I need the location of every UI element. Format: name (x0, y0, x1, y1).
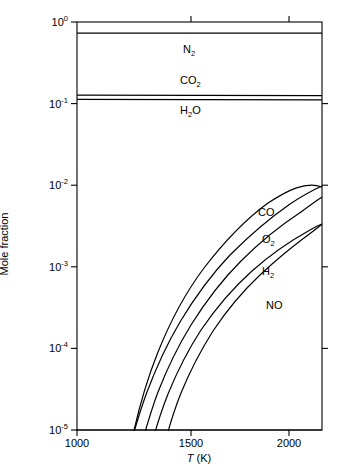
y-tick-label-1e-2: 10-2 (38, 180, 68, 191)
x-tick-label-1000: 1000 (65, 438, 89, 449)
y-axis-label: Mole fraction (0, 212, 10, 275)
series-label-h2o: H2O (180, 105, 201, 116)
y-tick-label-1e0: 100 (38, 17, 68, 28)
x-axis-ticks-top (191, 16, 289, 22)
chart-plot-area (0, 0, 346, 475)
series-label-co2: CO2 (180, 75, 201, 86)
y-axis-ticks-right (322, 104, 328, 349)
y-axis-ticks (71, 22, 77, 430)
x-tick-label-2000: 2000 (277, 438, 301, 449)
x-axis-label: T (K) (187, 452, 211, 464)
x-axis-label-variable: T (187, 452, 194, 464)
x-axis-label-unit: (K) (197, 452, 212, 464)
y-tick-label-1e-4: 10-4 (38, 343, 68, 354)
y-tick-label-1e-5: 10-5 (38, 425, 68, 436)
x-tick-label-1500: 1500 (179, 438, 203, 449)
series-label-o2: O2 (262, 234, 275, 245)
y-tick-label-1e-3: 10-3 (38, 261, 68, 272)
series-label-no: NO (266, 300, 283, 311)
series-label-h2: H2 (262, 266, 274, 277)
series-label-co: CO (258, 207, 275, 218)
y-tick-label-1e-1: 10-1 (38, 98, 68, 109)
chart-figure: 100 10-1 10-2 10-3 10-4 10-5 1000 1500 2… (0, 0, 346, 475)
series-label-n2: N2 (183, 44, 195, 55)
